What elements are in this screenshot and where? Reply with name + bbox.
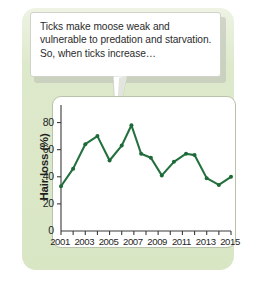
callout-text: Ticks make moose weak and vulnerable to … [40, 20, 216, 60]
callout: Ticks make moose weak and vulnerable to … [30, 12, 226, 84]
chart-panel: Hair loss (%) [52, 96, 236, 248]
y-tick-label: 40 [32, 170, 54, 182]
y-tick-label: 80 [32, 116, 54, 128]
line-chart [53, 97, 237, 249]
figure-root: Ticks make moose weak and vulnerable to … [0, 0, 255, 284]
y-tick-label: 0 [32, 224, 54, 236]
y-tick-label: 20 [32, 197, 54, 209]
x-tick-label: 2015 [215, 236, 245, 247]
y-tick-label: 60 [32, 143, 54, 155]
callout-box: Ticks make moose weak and vulnerable to … [30, 12, 221, 77]
